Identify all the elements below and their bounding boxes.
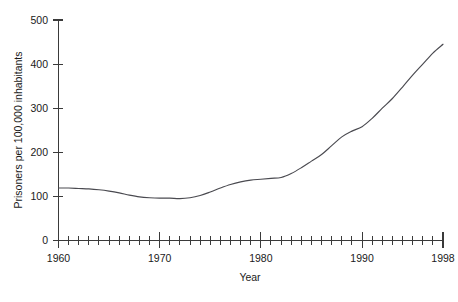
y-tick-label-100: 100 (30, 190, 48, 202)
line-chart-canvas: 0100200300400500 Prisoners per 100,000 i… (0, 0, 458, 302)
x-axis-title: Year (239, 271, 261, 283)
x-tick-label-1970: 1970 (148, 252, 172, 264)
x-tick-label-1998: 1998 (431, 252, 455, 264)
y-tick-label-0: 0 (42, 234, 48, 246)
chart-figure: 0100200300400500 Prisoners per 100,000 i… (0, 0, 458, 302)
x-tick-label-1980: 1980 (249, 252, 273, 264)
y-tick-label-300: 300 (30, 102, 48, 114)
y-axis-title: Prisoners per 100,000 inhabitants (12, 51, 24, 208)
y-tick-label-400: 400 (30, 58, 48, 70)
y-tick-label-200: 200 (30, 146, 48, 158)
y-tick-label-500: 500 (30, 14, 48, 26)
x-tick-label-1990: 1990 (350, 252, 374, 264)
x-tick-label-1960: 1960 (47, 252, 71, 264)
